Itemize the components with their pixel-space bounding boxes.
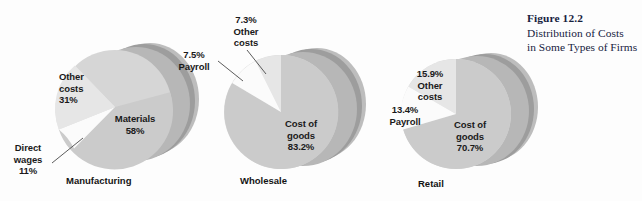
manufacturing-chart-title: Manufacturing (66, 175, 131, 186)
wholesale-chart-title: Wholesale (240, 175, 287, 186)
retail-label-cost-of-goods: Cost of goods 70.7% (441, 119, 499, 154)
retail-chart-title: Retail (418, 178, 444, 189)
wholesale-label-other-costs: 7.3% Other costs (218, 14, 274, 49)
manufacturing-label-materials: Materials 58% (104, 113, 166, 136)
retail-label-payroll: 13.4% Payroll (380, 104, 430, 127)
caption-line-2: in Some Types of Firms (527, 40, 639, 55)
retail-label-other-costs: 15.9% Other costs (404, 68, 456, 103)
wholesale-label-cost-of-goods: Cost of goods 83.2% (272, 118, 330, 153)
caption-line-1: Distribution of Costs (527, 26, 639, 41)
wholesale-label-payroll: 7.5% Payroll (170, 49, 218, 72)
wholesale-leader-line-payroll (218, 61, 243, 81)
manufacturing-label-direct-wages: Direct wages 11% (4, 142, 52, 177)
manufacturing-label-other-costs: Other costs 31% (59, 71, 111, 106)
caption-heading: Figure 12.2 (527, 11, 639, 26)
figure-caption: Figure 12.2 Distribution of Costs in Som… (527, 11, 639, 55)
figure-container: Other costs 31% Materials 58% Direct wag… (0, 0, 642, 201)
